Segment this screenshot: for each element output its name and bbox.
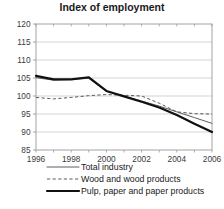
y-tick-label: 115	[17, 37, 31, 47]
y-axis-tick-labels: 859095100105110115120	[17, 19, 31, 155]
chart-legend: Total industryWood and wood productsPulp…	[47, 162, 205, 196]
y-tick-label: 105	[17, 73, 31, 83]
employment-index-line-chart: 859095100105110115120 199619982000200220…	[0, 0, 224, 209]
y-tick-label: 120	[17, 19, 31, 29]
legend-label-2: Pulp, paper and paper products	[81, 186, 205, 196]
chart-container: Index of employment 85909510010511011512…	[0, 0, 224, 209]
y-tick-label: 95	[21, 109, 31, 119]
y-tick-label: 100	[17, 91, 31, 101]
plot-background	[36, 24, 212, 150]
x-tick-label: 2002	[132, 154, 151, 164]
y-tick-label: 110	[17, 55, 31, 65]
legend-label-1: Wood and wood products	[81, 174, 181, 184]
x-tick-label: 2006	[203, 154, 222, 164]
legend-label-0: Total industry	[81, 162, 133, 172]
x-tick-label: 2004	[168, 154, 187, 164]
x-tick-label: 1996	[27, 154, 46, 164]
y-tick-label: 90	[21, 127, 31, 137]
x-tick-label: 1998	[62, 154, 81, 164]
